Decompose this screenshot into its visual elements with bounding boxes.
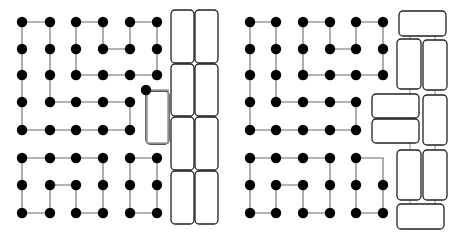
grid-dot xyxy=(71,97,81,107)
grid-dot xyxy=(17,17,27,27)
grid-dot xyxy=(71,180,81,190)
grid-dot xyxy=(245,97,255,107)
grid-dot xyxy=(351,208,361,218)
grid-dot xyxy=(125,208,135,218)
grid-dot xyxy=(245,180,255,190)
grid-dot xyxy=(271,70,281,80)
rounded-block xyxy=(397,204,444,229)
grid-dot xyxy=(45,97,55,107)
rounded-block xyxy=(195,117,218,170)
grid-dot xyxy=(125,44,135,54)
grid-dot xyxy=(298,17,308,27)
grid-dot xyxy=(298,125,308,135)
grid-dot xyxy=(152,208,162,218)
grid-dot xyxy=(152,44,162,54)
grid-dot xyxy=(98,125,108,135)
grid-dot xyxy=(125,125,135,135)
grid-dot xyxy=(351,97,361,107)
grid-dot xyxy=(325,44,335,54)
grid-dot xyxy=(17,125,27,135)
grid-dot xyxy=(325,97,335,107)
grid-dot xyxy=(298,44,308,54)
grid-dot xyxy=(378,44,388,54)
grid-dot xyxy=(378,180,388,190)
grid-dot xyxy=(325,70,335,80)
grid-dot xyxy=(71,208,81,218)
grid-path xyxy=(303,22,383,75)
grid-dot xyxy=(351,70,361,80)
grid-dot xyxy=(98,17,108,27)
grid-dot xyxy=(271,180,281,190)
diagram-canvas xyxy=(0,0,461,240)
rounded-block xyxy=(397,39,421,89)
grid-dot xyxy=(125,180,135,190)
grid-dot xyxy=(45,125,55,135)
grid-dot xyxy=(17,180,27,190)
grid-dot xyxy=(298,97,308,107)
grid-dot xyxy=(98,70,108,80)
grid-dot xyxy=(17,97,27,107)
grid-dot xyxy=(245,44,255,54)
grid-dot xyxy=(325,180,335,190)
grid-dot xyxy=(71,44,81,54)
grid-dot xyxy=(325,17,335,27)
grid-dot xyxy=(378,208,388,218)
rounded-block xyxy=(423,95,447,145)
rounded-block xyxy=(397,150,421,200)
grid-dot xyxy=(351,125,361,135)
grid-path xyxy=(76,22,157,75)
grid-dot xyxy=(45,70,55,80)
grid-dot xyxy=(271,125,281,135)
grid-dot xyxy=(45,180,55,190)
grid-dot xyxy=(245,17,255,27)
grid-dot xyxy=(125,97,135,107)
grid-dot xyxy=(45,208,55,218)
rounded-block xyxy=(146,91,169,144)
grid-dot xyxy=(245,125,255,135)
grid-dot xyxy=(152,17,162,27)
grid-dot xyxy=(98,208,108,218)
rounded-block xyxy=(423,150,447,200)
grid-dot xyxy=(325,208,335,218)
panel-left xyxy=(17,10,218,224)
grid-dot xyxy=(271,17,281,27)
grid-path xyxy=(22,158,103,213)
rounded-block xyxy=(195,10,218,63)
rounded-block xyxy=(195,64,218,116)
grid-dot xyxy=(17,153,27,163)
grid-dot xyxy=(125,70,135,80)
grid-dot xyxy=(17,70,27,80)
rounded-block xyxy=(171,10,194,63)
grid-dot xyxy=(152,70,162,80)
grid-dot xyxy=(125,153,135,163)
grid-dot xyxy=(98,180,108,190)
grid-dot xyxy=(245,153,255,163)
grid-dot xyxy=(298,180,308,190)
grid-path-diagram xyxy=(0,0,461,240)
grid-dot xyxy=(98,153,108,163)
grid-dot xyxy=(245,70,255,80)
rounded-block xyxy=(171,171,194,224)
grid-dot xyxy=(325,125,335,135)
grid-dot xyxy=(298,153,308,163)
grid-dot xyxy=(245,208,255,218)
grid-dot xyxy=(271,97,281,107)
rounded-block xyxy=(399,11,446,36)
grid-dot xyxy=(71,125,81,135)
grid-dot xyxy=(17,44,27,54)
grid-dot xyxy=(351,17,361,27)
grid-dot xyxy=(98,44,108,54)
rounded-block xyxy=(171,117,194,170)
grid-dot xyxy=(71,153,81,163)
grid-dot xyxy=(351,180,361,190)
grid-dot xyxy=(71,17,81,27)
rounded-block xyxy=(372,119,419,143)
grid-dot xyxy=(271,208,281,218)
panel-right xyxy=(245,11,447,229)
grid-dot xyxy=(141,85,151,95)
grid-dot xyxy=(45,44,55,54)
grid-dot xyxy=(45,17,55,27)
grid-dot xyxy=(71,70,81,80)
grid-dot xyxy=(152,180,162,190)
grid-dot xyxy=(378,17,388,27)
